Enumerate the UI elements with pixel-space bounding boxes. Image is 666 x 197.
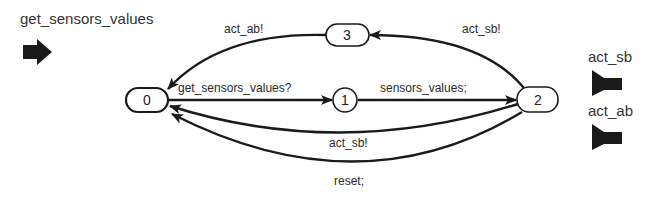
state-label: 0 (143, 92, 151, 108)
transition-label-0-1: get_sensors_values? (178, 81, 292, 95)
state-label: 2 (534, 92, 542, 108)
state-diagram: get_sensors_values act_sb act_ab get_sen… (0, 0, 666, 197)
state-label: 1 (341, 92, 349, 108)
input-arrow-icon (23, 39, 52, 65)
state-2[interactable]: 2 (517, 87, 558, 112)
output-port-label-act-sb: act_sb (588, 48, 632, 65)
transition-label-3-0: act_ab! (224, 22, 263, 36)
state-0[interactable]: 0 (126, 88, 168, 112)
output-port-icon (592, 70, 622, 96)
transition-label-1-2: sensors_values; (380, 81, 467, 95)
transition-label-2-0-act-sb: act_sb! (329, 136, 368, 150)
output-port-icon (592, 124, 622, 150)
state-1[interactable]: 1 (333, 88, 357, 112)
transition-label-2-3: act_sb! (462, 22, 501, 36)
input-port-label: get_sensors_values (20, 10, 153, 27)
state-label: 3 (343, 27, 351, 43)
transition-label-2-0-reset: reset; (334, 174, 364, 188)
state-3[interactable]: 3 (326, 24, 369, 46)
output-port-label-act-ab: act_ab (588, 102, 633, 119)
